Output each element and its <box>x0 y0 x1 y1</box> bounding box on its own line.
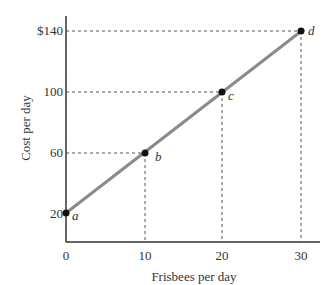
y-tick-140: $140 <box>37 23 63 38</box>
point-d <box>298 28 305 35</box>
cost-line <box>66 29 304 213</box>
x-tick-20: 20 <box>216 248 229 263</box>
cost-chart: a b c d $140 100 60 20 0 10 20 30 Frisbe… <box>0 0 335 285</box>
point-label-d: d <box>308 23 315 38</box>
x-tick-30: 30 <box>295 248 308 263</box>
point-label-c: c <box>228 88 234 103</box>
point-a <box>63 210 70 217</box>
y-tick-100: 100 <box>44 84 64 99</box>
guide-lines <box>66 31 301 242</box>
point-label-a: a <box>72 208 79 223</box>
x-tick-0: 0 <box>63 248 70 263</box>
point-c <box>219 89 226 96</box>
point-label-b: b <box>155 149 162 164</box>
y-tick-20: 20 <box>50 206 63 221</box>
x-axis-label: Frisbees per day <box>151 269 237 284</box>
y-axis-label: Cost per day <box>18 95 33 161</box>
y-tick-60: 60 <box>50 145 63 160</box>
x-tick-10: 10 <box>139 248 152 263</box>
point-b <box>142 150 149 157</box>
